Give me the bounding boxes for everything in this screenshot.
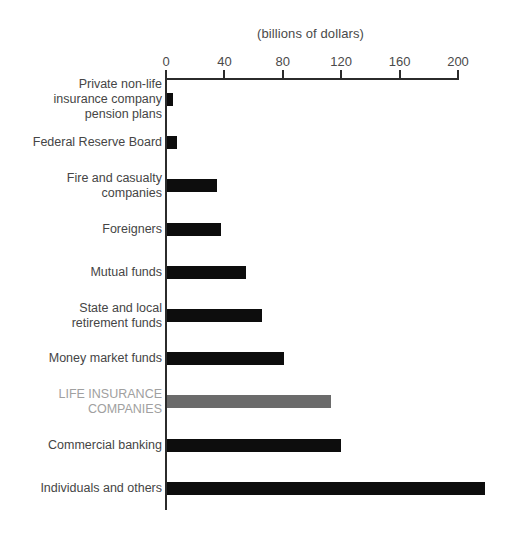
bar-row: Commercial banking <box>0 424 507 467</box>
bar-chart: (billions of dollars) 04080120160200 Pri… <box>0 0 507 553</box>
x-tick-label-160: 160 <box>389 54 411 69</box>
bar-row: LIFE INSURANCE COMPANIES <box>0 380 507 423</box>
bar <box>167 309 262 322</box>
x-tick-label-120: 120 <box>330 54 352 69</box>
bar-row: Fire and casualty companies <box>0 164 507 207</box>
bar <box>167 482 485 495</box>
chart-title-text: (billions of dollars) <box>257 26 364 41</box>
x-tick-label-0: 0 <box>162 54 169 69</box>
bar-row: Federal Reserve Board <box>0 121 507 164</box>
bar-row: Private non-life insurance company pensi… <box>0 78 507 121</box>
chart-title: (billions of dollars) <box>0 26 507 41</box>
bar <box>167 395 331 408</box>
category-label: Money market funds <box>0 351 162 366</box>
bar <box>167 266 246 279</box>
bar-rows: Private non-life insurance company pensi… <box>0 78 507 510</box>
category-label: Foreigners <box>0 222 162 237</box>
category-label: Commercial banking <box>0 438 162 453</box>
bar-row: Money market funds <box>0 337 507 380</box>
bar <box>167 439 341 452</box>
category-label: LIFE INSURANCE COMPANIES <box>0 387 162 417</box>
category-label: Fire and casualty companies <box>0 171 162 201</box>
category-label: Mutual funds <box>0 265 162 280</box>
category-label: Private non-life insurance company pensi… <box>0 77 162 122</box>
x-tick-label-80: 80 <box>276 54 290 69</box>
bar-row: Mutual funds <box>0 251 507 294</box>
bar <box>167 136 177 149</box>
bar-row: State and local retirement funds <box>0 294 507 337</box>
bar-row: Individuals and others <box>0 467 507 510</box>
category-label: Individuals and others <box>0 481 162 496</box>
x-tick-label-200: 200 <box>447 54 469 69</box>
bar <box>167 179 217 192</box>
category-label: Federal Reserve Board <box>0 135 162 150</box>
bar <box>167 223 221 236</box>
bar <box>167 352 284 365</box>
x-tick-label-40: 40 <box>217 54 231 69</box>
bar <box>167 93 173 106</box>
category-label: State and local retirement funds <box>0 301 162 331</box>
bar-row: Foreigners <box>0 208 507 251</box>
